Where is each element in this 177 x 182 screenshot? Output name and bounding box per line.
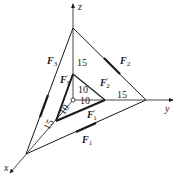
x-axis-label: x	[3, 162, 9, 173]
label-F3: F3	[46, 55, 58, 68]
label-F3-prime: F′3	[59, 73, 70, 87]
dim-inner-z: 10	[78, 84, 88, 95]
dim-outer-y: 15	[117, 89, 127, 100]
dim-inner-y: 10	[80, 95, 90, 106]
label-F1: F1	[81, 134, 93, 147]
label-F2: F2	[119, 55, 131, 68]
z-axis-label: z	[77, 1, 82, 12]
label-F1-prime: F′1	[86, 108, 97, 122]
force-F2-arrow	[104, 58, 120, 74]
force-F1-arrow	[76, 123, 96, 132]
dim-outer-z: 15	[77, 57, 87, 68]
origin-point	[71, 98, 75, 102]
force-F3-arrow	[40, 95, 48, 117]
diagram-svg: z y x 15 15 15 10 10 10 F3 F2 F1 F′3 F′2…	[0, 0, 177, 182]
force-diagram: z y x 15 15 15 10 10 10 F3 F2 F1 F′3 F′2…	[0, 0, 177, 182]
dim-outer-x: 15	[41, 117, 55, 131]
y-axis-label: y	[164, 103, 170, 114]
label-F2-prime: F′2	[99, 76, 110, 90]
